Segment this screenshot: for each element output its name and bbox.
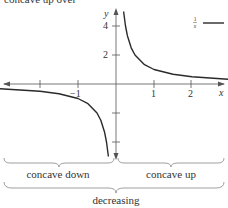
brace-concave-up [118, 158, 224, 167]
legend: 1 x [193, 16, 224, 29]
reciprocal-function-chart: concave up over y x 4 2 −1 1 2 1 x [0, 0, 228, 208]
x-axis-left-arrow-icon [3, 82, 10, 87]
annotation-concave-down: concave down [26, 168, 90, 180]
brace-decreasing [4, 182, 224, 193]
y-axis-label: y [103, 8, 109, 19]
curve-right-branch [124, 12, 228, 80]
legend-label-denominator: x [193, 23, 197, 29]
x-tick-label-2: 2 [188, 88, 193, 99]
cropped-top-text: concave up over [4, 0, 76, 5]
x-axis-right-arrow-icon [218, 82, 225, 87]
curve-left-branch [0, 89, 108, 157]
brace-concave-down [4, 158, 114, 167]
x-axis [3, 80, 225, 88]
x-tick-label-1: 1 [151, 88, 156, 99]
annotation-decreasing: decreasing [92, 194, 140, 206]
y-axis-up-arrow-icon [114, 8, 119, 15]
y-tick-label-2: 2 [103, 49, 108, 60]
x-axis-label: x [218, 87, 224, 98]
legend-label-numerator: 1 [194, 16, 197, 22]
annotation-concave-up: concave up [146, 168, 196, 180]
y-tick-label-4: 4 [103, 20, 108, 31]
